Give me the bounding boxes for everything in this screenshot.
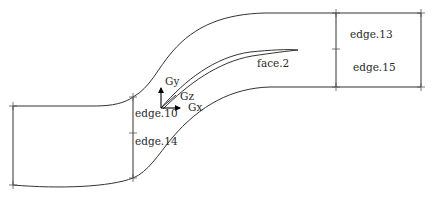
inlet-bottom-edge — [13, 178, 133, 187]
inlet-top-edge — [13, 97, 133, 106]
axis-label-gx: Gx — [188, 101, 202, 113]
channel-lower-wall — [133, 87, 336, 178]
diagram-canvas: Gy Gz Gx face.2 edge.10 edge.14 edge.13 … — [0, 0, 432, 197]
label-edge-13: edge.13 — [350, 28, 393, 40]
outlet-region — [336, 13, 421, 87]
label-edge-14: edge.14 — [135, 135, 178, 147]
axis-label-gy: Gy — [165, 75, 179, 87]
label-edge-10: edge.10 — [135, 107, 178, 119]
inlet-region — [13, 97, 133, 187]
label-edge-15: edge.15 — [353, 61, 396, 73]
label-face-2: face.2 — [257, 57, 289, 69]
